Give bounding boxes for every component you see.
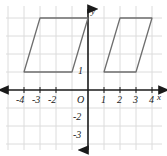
x-tick-label-neg4: -4: [16, 95, 24, 105]
x-tick-label-1: 1: [101, 95, 106, 105]
coordinate-plot: [0, 0, 167, 156]
x-axis-label: x: [157, 93, 161, 102]
x-tick-label-neg2: -2: [48, 95, 56, 105]
coordinate-plane-figure: -4 -3 -2 1 2 3 4 1 -2 -3 O x y: [0, 0, 167, 156]
origin-label: O: [77, 95, 84, 105]
x-tick-label-3: 3: [133, 95, 138, 105]
x-tick-label-neg3: -3: [32, 95, 40, 105]
x-tick-label-4: 4: [149, 95, 154, 105]
y-tick-label-neg3: -3: [73, 130, 81, 140]
y-axis-label: y: [91, 7, 95, 16]
y-tick-label-neg2: -2: [73, 112, 81, 122]
y-tick-label-1: 1: [78, 66, 83, 76]
right-parallelogram: [104, 18, 152, 72]
x-tick-label-2: 2: [117, 95, 122, 105]
grid-lines: [6, 6, 162, 150]
